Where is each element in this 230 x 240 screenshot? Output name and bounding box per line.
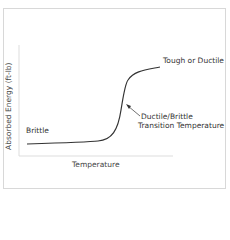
y-axis-label: Absorbed Energy (ft-lb) [4,63,13,150]
transition-label-2: Transition Temperature [138,122,224,130]
transition-label-1: Ductile/Brittle [141,113,193,121]
tough-label: Tough or Ductile [163,57,224,65]
x-axis-label: Temperature [72,161,120,169]
brittle-label: Brittle [26,127,49,135]
